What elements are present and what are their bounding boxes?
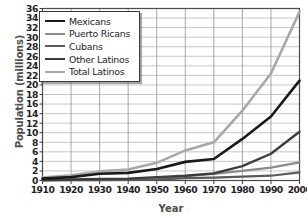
line-chart: 024681012141618202224262830323436 Popula… xyxy=(0,0,307,218)
y-axis-title: Population (millions) xyxy=(14,22,25,162)
legend-swatch-icon xyxy=(45,45,65,47)
legend-label: Other Latinos xyxy=(69,54,129,65)
legend-label: Puerto Ricans xyxy=(69,28,130,39)
x-axis-title: Year xyxy=(42,203,300,214)
legend-swatch-icon xyxy=(45,20,65,22)
y-tick-label: 2 xyxy=(18,166,38,175)
legend-item-mexicans: Mexicans xyxy=(43,15,135,28)
legend-label: Total Latinos xyxy=(69,66,124,77)
legend-label: Cubans xyxy=(69,41,103,52)
legend-item-puerto-ricans: Puerto Ricans xyxy=(43,28,135,41)
series-line-mexicans xyxy=(43,81,300,179)
y-tick-label: 36 xyxy=(18,4,38,13)
legend-swatch-icon xyxy=(45,58,65,60)
legend-item-other-latinos: Other Latinos xyxy=(43,53,135,66)
legend-swatch-icon xyxy=(45,33,65,35)
legend-item-cubans: Cubans xyxy=(43,40,135,53)
legend-label: Mexicans xyxy=(69,16,111,27)
legend-item-total-latinos: Total Latinos xyxy=(43,65,135,78)
legend-swatch-icon xyxy=(45,71,65,73)
x-tick-label: 2000 xyxy=(280,184,308,195)
chart-legend: MexicansPuerto RicansCubansOther Latinos… xyxy=(39,11,140,82)
